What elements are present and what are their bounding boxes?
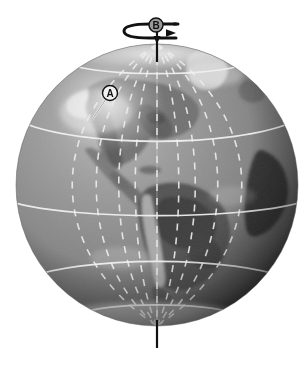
globe-diagram-figure: A B bbox=[0, 0, 302, 367]
label-a-badge[interactable] bbox=[103, 86, 118, 101]
label-b[interactable]: B bbox=[149, 18, 163, 32]
globe-diagram-svg: A B bbox=[0, 0, 302, 367]
label-b-badge[interactable] bbox=[149, 18, 163, 32]
